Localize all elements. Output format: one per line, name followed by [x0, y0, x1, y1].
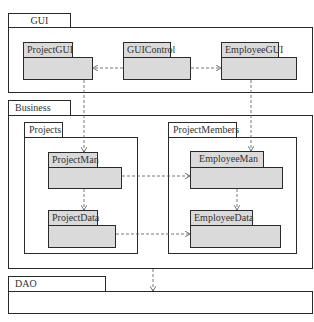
projectdata-package-tab: ProjectData [48, 210, 98, 226]
employeeman-package-tab: EmployeeMan [190, 151, 264, 168]
projects-package-tab: Projects [24, 122, 63, 138]
business-package-label: Business [15, 102, 51, 113]
projectgui-label: ProjectGUI [27, 44, 73, 55]
projectmembers-package-tab: ProjectMembers [168, 122, 237, 138]
projects-package-label: Projects [29, 124, 61, 135]
dao-package-label: DAO [15, 278, 37, 289]
guicontrol-package [123, 57, 191, 80]
projectgui-package-tab: ProjectGUI [23, 42, 73, 58]
employeedata-package-tab: EmployeeData [190, 210, 253, 226]
projectman-package-tab: ProjectMan [48, 152, 98, 168]
guicontrol-label: GUIControl [127, 44, 175, 55]
employeegui-package-tab: EmployeeGUI [221, 42, 279, 58]
employeegui-package [221, 57, 297, 80]
employeedata-label: EmployeeData [194, 212, 253, 223]
employeeman-label: EmployeeMan [199, 153, 258, 164]
projectdata-label: ProjectData [52, 212, 99, 223]
projectdata-package [48, 225, 116, 248]
dao-package [8, 291, 313, 314]
projectgui-package [23, 57, 93, 80]
projectmembers-package-label: ProjectMembers [173, 124, 239, 135]
employeegui-label: EmployeeGUI [225, 44, 283, 55]
employeedata-package [190, 225, 281, 248]
guicontrol-package-tab: GUIControl [123, 42, 171, 58]
projectman-package [48, 167, 122, 189]
projectman-label: ProjectMan [52, 154, 99, 165]
employeeman-package [190, 167, 283, 189]
dao-package-tab: DAO [8, 276, 106, 292]
gui-package-label: GUI [31, 15, 49, 26]
package-diagram: GUI ProjectGUI GUIControl EmployeeGUI Bu… [0, 0, 314, 322]
business-package-tab: Business [8, 100, 71, 116]
gui-package-tab: GUI [8, 13, 71, 28]
